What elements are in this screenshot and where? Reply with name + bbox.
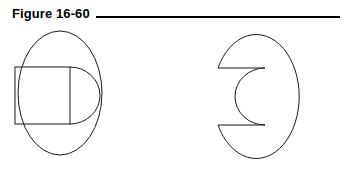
- left-view-slot-rectangle: [15, 67, 70, 124]
- figure-header: Figure 16-60: [0, 0, 348, 28]
- figure-drawing-area: [0, 26, 348, 193]
- right-view-notched-circle: [218, 34, 299, 158]
- left-view-slot-arc: [70, 67, 100, 124]
- figure-page: Figure 16-60: [0, 0, 348, 193]
- technical-drawing-svg: [0, 26, 348, 193]
- right-view-group: [218, 34, 299, 158]
- figure-header-rule: [96, 16, 340, 18]
- left-view-outer-circle: [18, 31, 102, 155]
- left-view-group: [15, 31, 102, 155]
- figure-caption: Figure 16-60: [12, 6, 90, 21]
